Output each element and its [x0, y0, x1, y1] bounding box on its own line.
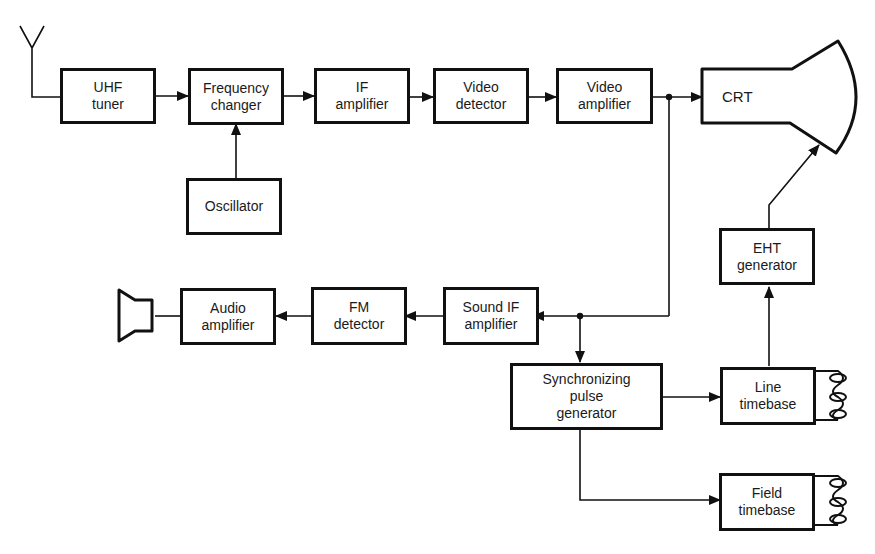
- deflection-coil-icon: [815, 371, 846, 420]
- uhf-tuner-block: UHF tuner: [60, 68, 156, 124]
- deflection-coil-icon: [815, 476, 846, 525]
- sync-pulse-generator-block: Synchronizing pulse generator: [510, 363, 663, 430]
- crt-label: CRT: [722, 88, 753, 105]
- fm-detector-block: FM detector: [311, 287, 407, 345]
- line-timebase-block: Line timebase: [720, 367, 816, 425]
- video-detector-block: Video detector: [433, 68, 529, 124]
- field-timebase-block: Field timebase: [719, 473, 815, 531]
- video-amplifier-block: Video amplifier: [556, 68, 653, 124]
- frequency-changer-block: Frequency changer: [188, 68, 284, 125]
- sound-if-amplifier-block: Sound IF amplifier: [443, 287, 539, 345]
- loudspeaker-icon: [119, 290, 152, 341]
- oscillator-block: Oscillator: [186, 178, 282, 235]
- eht-generator-block: EHT generator: [719, 228, 815, 285]
- antenna-icon: [20, 26, 60, 97]
- audio-amplifier-block: Audio amplifier: [180, 288, 276, 345]
- if-amplifier-block: IF amplifier: [314, 68, 410, 124]
